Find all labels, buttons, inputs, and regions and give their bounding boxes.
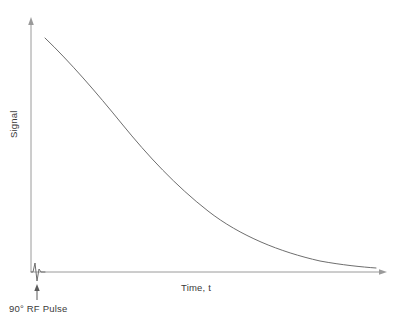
rf-pulse-label: 90° RF Pulse (9, 303, 67, 314)
decay-curve (45, 38, 376, 268)
chart-canvas (0, 0, 410, 329)
rf-pulse-waveform (31, 263, 45, 281)
y-axis-arrow-icon (28, 17, 34, 25)
relaxation-decay-figure: Signal Time, t 90° RF Pulse (0, 0, 410, 329)
x-axis-label: Time, t (181, 282, 211, 293)
y-axis-label: Signal (8, 110, 19, 138)
arrow-up-icon (34, 284, 39, 291)
x-axis-arrow-icon (379, 269, 387, 275)
